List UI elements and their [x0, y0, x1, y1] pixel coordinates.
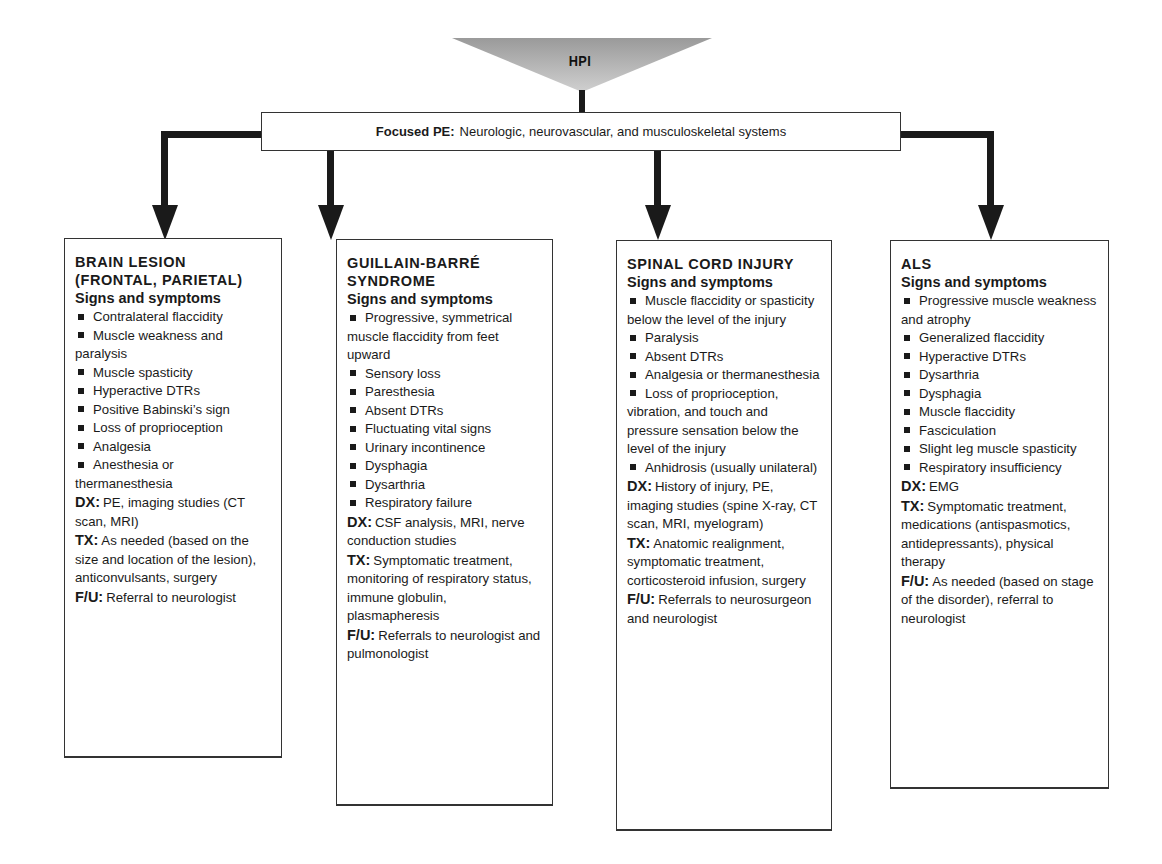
- square-bullet-icon: [630, 464, 636, 470]
- list-item: Slight leg muscle spasticity: [901, 440, 1098, 459]
- arrow-down-icon: [152, 205, 178, 240]
- diagnosis-box-als: ALS Signs and symptoms Progressive muscl…: [890, 240, 1109, 789]
- square-bullet-icon: [904, 335, 910, 341]
- list-item: Respiratory failure: [347, 494, 542, 513]
- square-bullet-icon: [78, 462, 84, 468]
- diagnosis-box-brain-lesion: BRAIN LESION (FRONTAL, PARIETAL) Signs a…: [64, 238, 282, 758]
- square-bullet-icon: [78, 332, 84, 338]
- square-bullet-icon: [78, 406, 84, 412]
- square-bullet-icon: [904, 298, 910, 304]
- square-bullet-icon: [904, 353, 910, 359]
- square-bullet-icon: [78, 369, 84, 375]
- tx-field: TX:Symptomatic treatment, medications (a…: [901, 497, 1098, 572]
- square-bullet-icon: [350, 315, 356, 321]
- square-bullet-icon: [630, 372, 636, 378]
- list-item: Analgesia or thermanesthesia: [627, 366, 821, 385]
- diagnostic-flowchart: HPI Focused PE: Neurologic, neurovascula…: [0, 0, 1162, 864]
- square-bullet-icon: [78, 314, 84, 320]
- square-bullet-icon: [78, 443, 84, 449]
- dx-field: DX:History of injury, PE, imaging studie…: [627, 477, 821, 534]
- square-bullet-icon: [350, 426, 356, 432]
- list-item: Generalized flaccidity: [901, 329, 1098, 348]
- diagnosis-box-guillain-barre: GUILLAIN-BARRÉ SYNDROME Signs and sympto…: [336, 239, 553, 806]
- fu-field: F/U:As needed (based on stage of the dis…: [901, 572, 1098, 629]
- tx-field: TX:Symptomatic treatment, monitoring of …: [347, 551, 542, 626]
- list-item: Anhidrosis (usually unilateral): [627, 459, 821, 478]
- list-item: Urinary incontinence: [347, 439, 542, 458]
- square-bullet-icon: [350, 389, 356, 395]
- list-item: Paresthesia: [347, 383, 542, 402]
- square-bullet-icon: [904, 390, 910, 396]
- list-item: Respiratory insufficiency: [901, 459, 1098, 478]
- square-bullet-icon: [630, 390, 636, 396]
- diagnosis-title: GUILLAIN-BARRÉ: [347, 254, 542, 272]
- focused-pe-box: Focused PE: Neurologic, neurovascular, a…: [261, 112, 901, 151]
- focused-pe-text: Neurologic, neurovascular, and musculosk…: [460, 124, 787, 139]
- list-item: Muscle flaccidity: [901, 403, 1098, 422]
- list-item: Analgesia: [75, 438, 271, 457]
- list-item: Anesthesia or thermanesthesia: [75, 456, 271, 493]
- list-item: Absent DTRs: [627, 348, 821, 367]
- list-item: Muscle spasticity: [75, 364, 271, 383]
- fu-field: F/U:Referrals to neurologist and pulmono…: [347, 626, 542, 664]
- diagnosis-title: ALS: [901, 255, 1098, 273]
- list-item: Paralysis: [627, 329, 821, 348]
- square-bullet-icon: [350, 481, 356, 487]
- list-item: Hyperactive DTRs: [75, 382, 271, 401]
- tx-field: TX:Anatomic realignment, symptomatic tre…: [627, 534, 821, 591]
- square-bullet-icon: [630, 335, 636, 341]
- list-item: Dysphagia: [901, 385, 1098, 404]
- square-bullet-icon: [904, 446, 910, 452]
- square-bullet-icon: [350, 463, 356, 469]
- list-item: Fluctuating vital signs: [347, 420, 542, 439]
- list-item: Contralateral flaccidity: [75, 308, 271, 327]
- list-item: Dysarthria: [901, 366, 1098, 385]
- signs-heading: Signs and symptoms: [347, 290, 542, 309]
- dx-field: DX:CSF analysis, MRI, nerve conduction s…: [347, 513, 542, 551]
- square-bullet-icon: [350, 370, 356, 376]
- fu-field: F/U:Referrals to neurosurgeon and neurol…: [627, 590, 821, 628]
- signs-list: Progressive muscle weakness and atrophy …: [901, 292, 1098, 477]
- dx-field: DX:EMG: [901, 477, 1098, 497]
- list-item: Dysarthria: [347, 476, 542, 495]
- square-bullet-icon: [350, 500, 356, 506]
- hpi-label: HPI: [546, 52, 614, 69]
- diagnosis-box-spinal-cord-injury: SPINAL CORD INJURY Signs and symptoms Mu…: [616, 240, 832, 831]
- square-bullet-icon: [904, 464, 910, 470]
- signs-list: Progressive, symmetrical muscle flaccidi…: [347, 309, 542, 513]
- arrow-down-icon: [645, 205, 671, 240]
- diagnosis-title: BRAIN LESION: [75, 253, 271, 271]
- list-item: Progressive, symmetrical muscle flaccidi…: [347, 309, 542, 365]
- square-bullet-icon: [630, 353, 636, 359]
- square-bullet-icon: [350, 444, 356, 450]
- diagnosis-title: SYNDROME: [347, 272, 542, 290]
- signs-heading: Signs and symptoms: [75, 289, 271, 308]
- signs-list: Contralateral flaccidity Muscle weakness…: [75, 308, 271, 493]
- list-item: Sensory loss: [347, 365, 542, 384]
- diagnosis-title: (FRONTAL, PARIETAL): [75, 271, 271, 289]
- square-bullet-icon: [350, 407, 356, 413]
- signs-heading: Signs and symptoms: [901, 273, 1098, 292]
- signs-heading: Signs and symptoms: [627, 273, 821, 292]
- focused-pe-label: Focused PE:: [376, 124, 455, 139]
- list-item: Dysphagia: [347, 457, 542, 476]
- list-item: Muscle weakness and paralysis: [75, 327, 271, 364]
- diagnosis-title: SPINAL CORD INJURY: [627, 255, 821, 273]
- list-item: Progressive muscle weakness and atrophy: [901, 292, 1098, 329]
- square-bullet-icon: [78, 425, 84, 431]
- arrow-down-icon: [318, 205, 344, 240]
- signs-list: Muscle flaccidity or spasticity below th…: [627, 292, 821, 477]
- list-item: Hyperactive DTRs: [901, 348, 1098, 367]
- list-item: Fasciculation: [901, 422, 1098, 441]
- list-item: Loss of proprioception, vibration, and t…: [627, 385, 821, 459]
- square-bullet-icon: [630, 298, 636, 304]
- dx-field: DX:PE, imaging studies (CT scan, MRI): [75, 493, 271, 531]
- list-item: Muscle flaccidity or spasticity below th…: [627, 292, 821, 329]
- tx-field: TX:As needed (based on the size and loca…: [75, 531, 271, 588]
- square-bullet-icon: [904, 409, 910, 415]
- square-bullet-icon: [78, 388, 84, 394]
- list-item: Absent DTRs: [347, 402, 542, 421]
- fu-field: F/U:Referral to neurologist: [75, 588, 271, 608]
- arrow-down-icon: [978, 205, 1004, 240]
- list-item: Loss of proprioception: [75, 419, 271, 438]
